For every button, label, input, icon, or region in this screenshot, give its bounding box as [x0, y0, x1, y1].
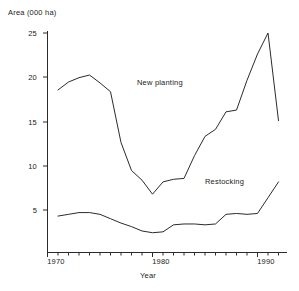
y-tick-label-15: 15 [21, 118, 37, 127]
series-line-new-planting [58, 33, 279, 194]
y-tick-marks [43, 33, 48, 210]
series-line-restocking [58, 182, 279, 233]
y-tick-label-5: 5 [21, 206, 37, 215]
x-tick-label-1970: 1970 [42, 257, 70, 266]
y-tick-label-10: 10 [21, 162, 37, 171]
y-axis-title: Area (000 ha) [8, 8, 56, 17]
series-label-restocking: Restocking [205, 177, 244, 186]
x-tick-label-1980: 1980 [147, 257, 175, 266]
y-tick-label-20: 20 [21, 73, 37, 82]
x-tick-label-1990: 1990 [252, 257, 280, 266]
axes-group [48, 31, 288, 253]
chart-figure: Area (000 ha) Year 25 20 15 10 5 1970 19… [0, 0, 299, 291]
chart-plot-area [0, 0, 299, 291]
series-label-new-planting: New planting [137, 78, 183, 87]
x-axis-title: Year [140, 271, 156, 280]
y-tick-label-25: 25 [21, 29, 37, 38]
